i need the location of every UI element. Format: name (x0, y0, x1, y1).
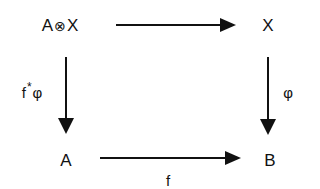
arrow-top (116, 18, 236, 32)
node-top-left-base: A (42, 16, 53, 35)
label-left-phi: φ (33, 84, 43, 101)
label-bottom-arrow: f (166, 173, 170, 188)
arrow-bottom (100, 151, 241, 165)
node-bottom-right: B (264, 152, 275, 169)
arrowhead-top (220, 18, 236, 32)
node-top-right: X (262, 17, 273, 34)
arrowhead-left (58, 118, 74, 134)
arrow-right (260, 57, 276, 135)
label-left-sup: * (27, 80, 32, 94)
label-left-base: f (22, 84, 26, 101)
node-bottom-left: A (60, 152, 71, 169)
tensor-product-symbol: ⊗ (54, 18, 66, 34)
arrow-left (58, 57, 74, 134)
label-right-arrow: φ (283, 85, 293, 100)
arrowhead-right (260, 119, 276, 135)
node-top-left: A⊗X (42, 17, 79, 34)
node-top-left-right: X (67, 16, 78, 35)
arrowhead-bottom (225, 151, 241, 165)
label-left-arrow: f*φ (22, 85, 43, 100)
